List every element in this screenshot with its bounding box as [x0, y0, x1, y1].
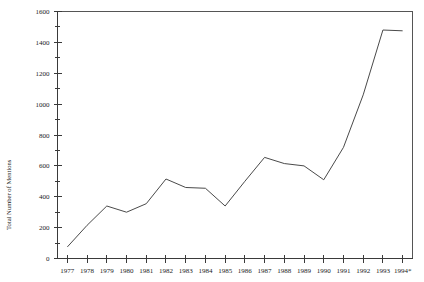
x-tick-label: 1977	[60, 267, 75, 275]
x-tick-label: 1981	[139, 267, 154, 275]
y-tick-label: 600	[39, 162, 50, 170]
y-axis-title: Total Number of Mentions	[5, 159, 12, 230]
x-tick-label: 1994*	[394, 267, 412, 275]
x-tick-label: 1987	[258, 267, 273, 275]
x-tick-label: 1991	[336, 267, 351, 275]
chart-background	[0, 0, 424, 282]
x-tick-label: 1989	[297, 267, 312, 275]
chart-container: 02004006008001000120014001600 1977197819…	[0, 0, 424, 282]
y-tick-label: 0	[46, 255, 50, 263]
y-tick-label: 200	[39, 224, 50, 232]
x-tick-label: 1990	[317, 267, 332, 275]
x-tick-label: 1982	[159, 267, 174, 275]
x-tick-label: 1988	[277, 267, 292, 275]
x-tick-label: 1983	[179, 267, 194, 275]
y-tick-label: 400	[39, 193, 50, 201]
x-tick-label: 1993	[376, 267, 391, 275]
x-tick-label: 1978	[80, 267, 95, 275]
x-tick-label: 1980	[120, 267, 135, 275]
x-tick-label: 1985	[218, 267, 233, 275]
line-chart: 02004006008001000120014001600 1977197819…	[0, 0, 424, 282]
x-tick-label: 1979	[100, 267, 115, 275]
y-tick-label: 800	[39, 132, 50, 140]
x-tick-label: 1986	[238, 267, 253, 275]
x-tick-label: 1984	[198, 267, 213, 275]
y-tick-label: 1200	[36, 70, 51, 78]
x-tick-label: 1992	[356, 267, 371, 275]
y-tick-label: 1000	[36, 101, 51, 109]
y-tick-label: 1400	[36, 39, 51, 47]
y-tick-label: 1600	[36, 8, 51, 16]
